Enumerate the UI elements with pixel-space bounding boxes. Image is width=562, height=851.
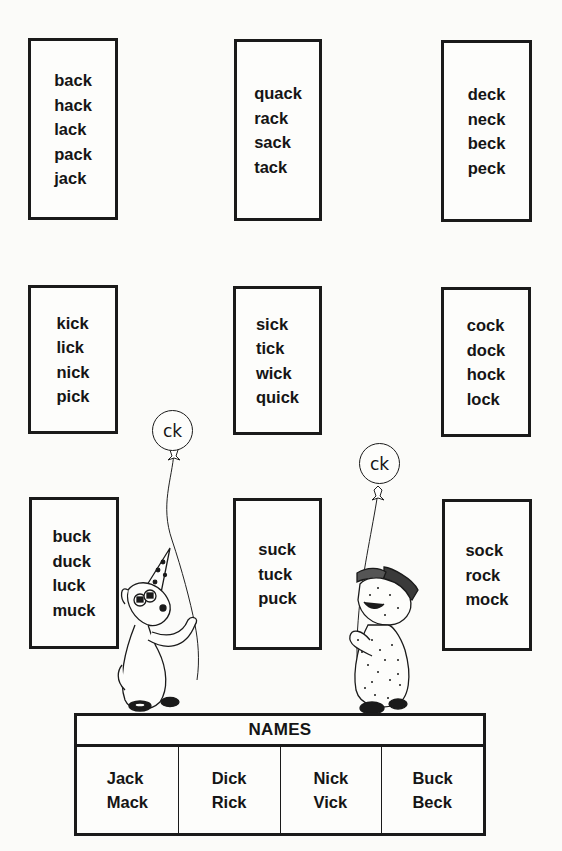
name: Rick bbox=[212, 790, 247, 814]
name: Beck bbox=[412, 790, 452, 814]
balloon-ck-right: ck bbox=[359, 443, 400, 484]
names-cell: Jack Mack bbox=[77, 747, 178, 833]
sheep-character-icon bbox=[350, 567, 418, 714]
name: Nick bbox=[313, 766, 348, 790]
name: Dick bbox=[212, 766, 247, 790]
names-cell: Dick Rick bbox=[178, 747, 280, 833]
balloon-ck-left: ck bbox=[152, 410, 193, 451]
name: Buck bbox=[412, 766, 452, 790]
dog-character-icon bbox=[118, 548, 196, 711]
names-table-title: NAMES bbox=[77, 716, 483, 747]
balloon-knot-icon bbox=[372, 486, 384, 500]
names-table: NAMES Jack Mack Dick Rick Nick Vick Buck… bbox=[74, 713, 486, 836]
names-cell: Buck Beck bbox=[381, 747, 483, 833]
name: Mack bbox=[107, 790, 148, 814]
name: Jack bbox=[107, 766, 148, 790]
name: Vick bbox=[313, 790, 348, 814]
names-table-row: Jack Mack Dick Rick Nick Vick Buck Beck bbox=[77, 747, 483, 833]
names-cell: Nick Vick bbox=[280, 747, 382, 833]
